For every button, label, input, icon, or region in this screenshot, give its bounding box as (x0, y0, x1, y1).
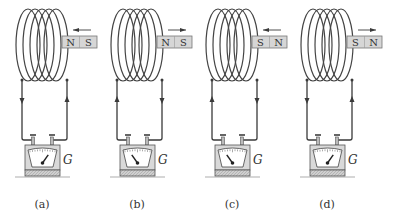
needle-pivot (326, 161, 330, 165)
panel-b: NSG(b) (110, 9, 192, 211)
current-arrow-left (20, 98, 25, 104)
magnet-left-pole: S (257, 37, 264, 48)
coil (111, 9, 163, 81)
magnet-right-pole: S (85, 37, 92, 48)
wire-left (307, 80, 318, 140)
panel-a: NSG(a) (15, 9, 97, 211)
meter-base (215, 170, 250, 176)
current-arrow-right (160, 98, 165, 104)
coil-turn (118, 9, 142, 81)
meter-label: G (63, 153, 73, 167)
coil-turn (206, 9, 230, 81)
coil-turn (125, 9, 149, 81)
coil-turn (220, 9, 244, 81)
coil-turn (30, 9, 54, 81)
terminal-right-cap (334, 134, 340, 136)
panel-d: SNG(d) (300, 9, 382, 211)
current-arrow-left (305, 98, 310, 104)
coil (301, 9, 353, 81)
magnet-left-pole: S (352, 37, 359, 48)
meter-base (120, 170, 155, 176)
coil (206, 9, 258, 81)
magnet-left-pole: N (161, 37, 170, 48)
terminal-left (32, 137, 35, 145)
wire-left (117, 80, 128, 140)
current-arrow-right (65, 96, 70, 102)
panel-label: (b) (129, 198, 145, 211)
wire-left (212, 80, 223, 140)
meter-label: G (158, 153, 168, 167)
wire-right (52, 80, 67, 140)
coil-turn (301, 9, 325, 81)
bar-magnet: NS (62, 36, 97, 48)
terminal-left (127, 137, 130, 145)
terminal-left-cap (220, 134, 226, 136)
motion-arrow-head (73, 28, 79, 32)
panel-label: (d) (319, 198, 335, 211)
terminal-left (222, 137, 225, 145)
needle-pivot (41, 161, 45, 165)
current-arrow-right (350, 96, 355, 102)
meter-label: G (348, 153, 358, 167)
terminal-right (51, 137, 54, 145)
wire-left (22, 80, 33, 140)
current-arrow-right (255, 98, 260, 104)
terminal-left-cap (315, 134, 321, 136)
meter-base (25, 170, 60, 176)
terminal-left-cap (125, 134, 131, 136)
coil-turn (308, 9, 332, 81)
needle-pivot (231, 161, 235, 165)
magnet-left-pole: N (66, 37, 75, 48)
motion-arrow-head (263, 28, 269, 32)
terminal-right-cap (239, 134, 245, 136)
terminal-right (336, 137, 339, 145)
meter-label: G (253, 153, 263, 167)
bar-magnet: SN (347, 36, 382, 48)
bar-magnet: SN (252, 36, 287, 48)
coil-turn (111, 9, 135, 81)
panel-label: (a) (34, 198, 49, 211)
bar-magnet: NS (157, 36, 192, 48)
coil-turn (213, 9, 237, 81)
panel-c: SNG(c) (205, 9, 287, 211)
magnet-right-pole: S (180, 37, 187, 48)
motion-arrow-head (180, 28, 186, 32)
electromagnetic-induction-diagram: NSG(a)NSG(b)SNG(c)SNG(d) (0, 0, 403, 215)
terminal-left (317, 137, 320, 145)
terminal-right (241, 137, 244, 145)
motion-arrow-head (370, 28, 376, 32)
terminal-right (146, 137, 149, 145)
magnet-right-pole: N (274, 37, 283, 48)
magnet-right-pole: N (369, 37, 378, 48)
terminal-right-cap (49, 134, 55, 136)
current-arrow-left (115, 96, 120, 102)
coil-turn (315, 9, 339, 81)
coil-turn (132, 9, 156, 81)
coil-turn (227, 9, 251, 81)
needle-pivot (136, 161, 140, 165)
current-arrow-left (210, 96, 215, 102)
wire-right (147, 80, 162, 140)
wire-right (337, 80, 352, 140)
coil-turn (322, 9, 346, 81)
terminal-right-cap (144, 134, 150, 136)
meter-base (310, 170, 345, 176)
coil (16, 9, 68, 81)
wire-right (242, 80, 257, 140)
panel-label: (c) (225, 198, 240, 211)
terminal-left-cap (30, 134, 36, 136)
